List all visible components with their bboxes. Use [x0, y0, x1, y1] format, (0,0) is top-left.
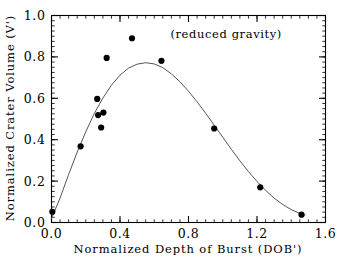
data-point — [49, 209, 55, 215]
y-tick-label: 1.0 — [24, 8, 46, 23]
data-point — [298, 212, 304, 218]
data-point — [129, 35, 135, 41]
data-point — [257, 184, 263, 190]
y-tick-label: 0.4 — [24, 132, 46, 147]
y-tick-label: 0.2 — [24, 174, 46, 189]
data-point — [94, 96, 100, 102]
x-tick-label: 1.2 — [246, 226, 268, 241]
x-tick-label: 0.4 — [109, 226, 131, 241]
crater-volume-figure: 0.00.40.81.21.6 0.00.20.40.60.81.0 (redu… — [0, 0, 339, 262]
data-point — [158, 58, 164, 64]
data-point — [98, 124, 104, 130]
x-axis-title-label: Normalized Depth of Burst (DOB') — [74, 242, 303, 256]
y-tick-label: 0.0 — [24, 215, 46, 230]
y-axis-title-label: Normalized Crater Volume (V') — [3, 15, 17, 221]
data-point — [211, 125, 217, 131]
x-tick-label: 0.8 — [178, 226, 200, 241]
y-tick-label: 0.8 — [24, 49, 46, 64]
x-tick-label: 1.6 — [315, 226, 337, 241]
x-axis-title: Normalized Depth of Burst (DOB') — [74, 242, 303, 256]
annotation-label: (reduced gravity) — [170, 27, 282, 41]
chart-annotation: (reduced gravity) — [170, 27, 282, 41]
data-point — [104, 55, 110, 61]
scatter-plot-canvas: 0.00.40.81.21.6 0.00.20.40.60.81.0 (redu… — [0, 0, 339, 262]
data-point — [95, 112, 101, 118]
y-axis-title: Normalized Crater Volume (V') — [3, 15, 17, 221]
y-tick-label: 0.6 — [24, 91, 46, 106]
data-point — [100, 109, 106, 115]
data-point — [78, 143, 84, 149]
